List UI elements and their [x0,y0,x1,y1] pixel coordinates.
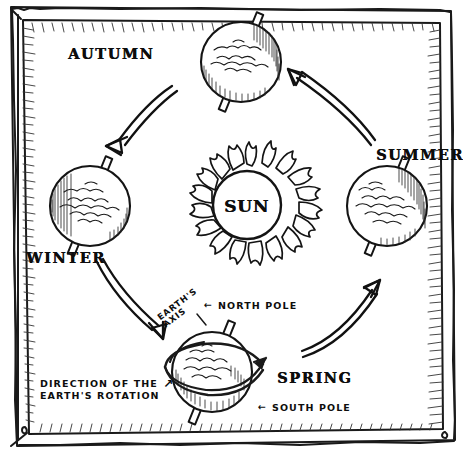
south-pole-label: SOUTH POLE [272,402,351,413]
sun-label: SUN [224,196,269,216]
earth-rotation-line2: EARTH'S ROTATION [40,390,160,402]
earth-rotation-line1: DIRECTION OF THE [40,378,160,390]
season-label-autumn: AUTUMN [68,45,154,62]
axis-leader-line [197,314,206,325]
season-label-summer: SUMMER [376,146,463,163]
earth-rotation-label: DIRECTION OF THE EARTH'S ROTATION [40,378,160,401]
north-pole-arrow-icon: ← [204,299,213,310]
season-label-spring: SPRING [277,369,352,386]
seasons-diagram: AUTUMN WINTER SUMMER SPRING SUN EARTH'S … [0,0,463,453]
north-pole-label: NORTH POLE [218,300,297,311]
season-label-winter: WINTER [26,249,106,266]
south-pole-arrow-icon: ← [258,401,267,412]
earth-rotation-arrow-icon: ↗ [163,377,174,391]
